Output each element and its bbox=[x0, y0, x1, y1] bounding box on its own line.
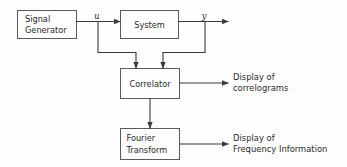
output-label-correlograms-line1: Display of bbox=[233, 72, 276, 82]
block-label-signal-generator-line2: Generator bbox=[25, 25, 67, 35]
output-label-frequency-line1: Display of bbox=[233, 133, 276, 143]
block-label-fourier-transform-line2: Transform bbox=[126, 145, 168, 155]
signal-label-y: y bbox=[201, 11, 207, 21]
diagram-canvas: Signal Generator System Correlator Fouri… bbox=[0, 0, 347, 167]
block-diagram: Signal Generator System Correlator Fouri… bbox=[0, 0, 347, 167]
output-label-correlograms-line2: correlograms bbox=[233, 83, 288, 93]
block-label-system: System bbox=[134, 20, 165, 30]
block-label-correlator: Correlator bbox=[129, 79, 171, 89]
signal-label-u: u bbox=[94, 11, 99, 21]
output-label-frequency-line2: Frequency Information bbox=[233, 144, 327, 154]
block-label-fourier-transform-line1: Fourier bbox=[127, 133, 156, 143]
block-label-signal-generator-line1: Signal bbox=[25, 14, 50, 24]
